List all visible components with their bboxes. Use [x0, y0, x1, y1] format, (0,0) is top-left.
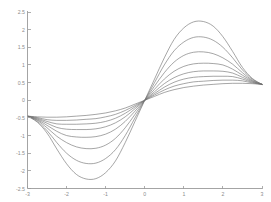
y-tick-label: -2.5: [16, 186, 25, 192]
x-tick-label: -3: [25, 191, 30, 197]
y-tick-label: 1.5: [18, 44, 25, 50]
x-tick-label: -1: [103, 191, 108, 197]
y-tick-label: -1.5: [16, 150, 25, 156]
figure-canvas: -3-2-10123 -2.5-2-1.5-1-0.500.511.522.5: [0, 0, 271, 202]
x-tick-label: 3: [261, 191, 264, 197]
y-tick-label: -1: [20, 133, 25, 139]
plot-background: [0, 0, 271, 202]
x-tick-label: 2: [221, 191, 224, 197]
x-tick-label: 1: [182, 191, 185, 197]
y-tick-label: -2: [20, 168, 25, 174]
y-tick-label: 0.5: [18, 80, 25, 86]
x-tick-label: 0: [143, 191, 146, 197]
y-tick-label: 0: [22, 97, 25, 103]
y-tick-label: -0.5: [16, 115, 25, 121]
y-tick-label: 2.5: [18, 9, 25, 15]
plot-area: -3-2-10123 -2.5-2-1.5-1-0.500.511.522.5: [0, 0, 271, 202]
y-tick-label: 1: [22, 62, 25, 68]
y-tick-label: 2: [22, 27, 25, 33]
x-tick-label: -2: [64, 191, 69, 197]
